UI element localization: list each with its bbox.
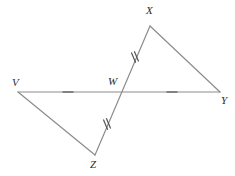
segment-XY bbox=[150, 26, 220, 92]
segments-group bbox=[18, 26, 220, 155]
segment-XZ bbox=[95, 26, 150, 155]
vertex-label-v: V bbox=[12, 77, 19, 88]
geometry-figure: V W X Y Z bbox=[0, 0, 235, 176]
tick-segment-WX bbox=[131, 51, 138, 62]
vertex-label-w: W bbox=[108, 76, 117, 87]
vertex-label-z: Z bbox=[90, 159, 96, 170]
segment-VZ bbox=[18, 92, 95, 155]
geometry-canvas bbox=[0, 0, 235, 176]
vertex-label-y: Y bbox=[221, 95, 227, 106]
vertex-label-x: X bbox=[146, 5, 153, 16]
tick-marks-group bbox=[63, 51, 178, 129]
